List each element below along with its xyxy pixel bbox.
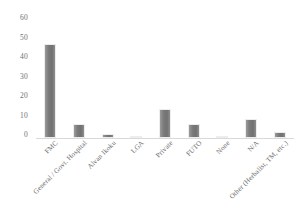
bar-slot <box>36 21 65 138</box>
y-tick-label: 60 <box>20 14 28 22</box>
x-tick-label-fmc: FMC <box>44 139 60 155</box>
x-tick-label-alvan-ikoku: Alvan Ikoku <box>86 139 118 171</box>
bar-slot <box>179 21 208 138</box>
bar-slot <box>93 21 122 138</box>
x-axis-category-labels: FMC General / Govt. Hospital Alvan Ikoku… <box>36 139 294 224</box>
bar <box>73 124 85 138</box>
y-tick-label: 40 <box>20 53 28 61</box>
y-tick-label: 20 <box>20 92 28 100</box>
x-tick-label-none: None <box>215 139 232 156</box>
bar-series <box>36 21 294 138</box>
bar <box>245 119 257 139</box>
y-axis-tick-labels: 60 50 40 30 20 10 0 <box>0 14 32 145</box>
bar-slot <box>237 21 266 138</box>
bar <box>130 136 142 138</box>
y-tick-label: 0 <box>24 131 28 139</box>
y-tick-label: 50 <box>20 34 28 42</box>
bar-slot <box>122 21 151 138</box>
bar-chart: 60 50 40 30 20 10 0 FMC General / Govt. … <box>0 0 301 224</box>
bar <box>159 109 171 138</box>
bar <box>216 136 228 138</box>
bar-slot <box>208 21 237 138</box>
x-tick-label-general-govt-hospital: General / Govt. Hospital <box>32 139 89 196</box>
x-tick-label-na: N/A <box>246 139 261 154</box>
bar <box>274 132 286 138</box>
bar <box>44 44 56 138</box>
x-tick-label-private: Private <box>154 139 174 159</box>
y-tick-label: 10 <box>20 112 28 120</box>
x-tick-label-other: Other (Herbalist, TM, etc.) <box>228 139 290 201</box>
x-tick-label-futo: FUTO <box>184 139 203 158</box>
bar-slot <box>265 21 294 138</box>
bar <box>102 134 114 138</box>
bar <box>188 124 200 138</box>
x-tick-label-lga: LGA <box>130 139 146 155</box>
y-tick-label: 30 <box>20 73 28 81</box>
bar-slot <box>65 21 94 138</box>
bar-slot <box>151 21 180 138</box>
